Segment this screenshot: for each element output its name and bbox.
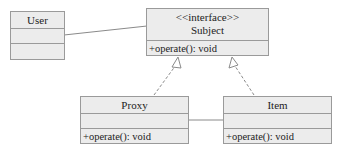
class-user-operations	[11, 43, 64, 59]
realization-item-subject	[235, 66, 254, 95]
association-user-subject	[64, 26, 147, 35]
class-user-attributes	[11, 28, 64, 43]
class-subject-name: Subject	[147, 24, 268, 37]
class-user: User	[10, 11, 65, 60]
class-proxy: Proxy +operate(): void	[80, 96, 189, 144]
realization-proxy-subject	[154, 65, 176, 95]
class-subject-operation: +operate(): void	[147, 40, 268, 55]
class-proxy-operation: +operate(): void	[81, 128, 188, 143]
class-subject-header: <<interface>> Subject	[147, 9, 268, 40]
class-subject-stereotype: <<interface>>	[147, 11, 268, 24]
class-item: Item +operate(): void	[223, 96, 332, 144]
class-item-attributes	[224, 113, 331, 128]
class-subject: <<interface>> Subject +operate(): void	[146, 8, 269, 56]
class-proxy-name: Proxy	[81, 97, 188, 113]
class-proxy-attributes	[81, 113, 188, 128]
realization-arrowhead-icon	[229, 57, 238, 68]
class-user-name: User	[11, 12, 64, 28]
class-item-operation: +operate(): void	[224, 128, 331, 143]
realization-arrowhead-icon	[172, 57, 181, 68]
class-item-name: Item	[224, 97, 331, 113]
